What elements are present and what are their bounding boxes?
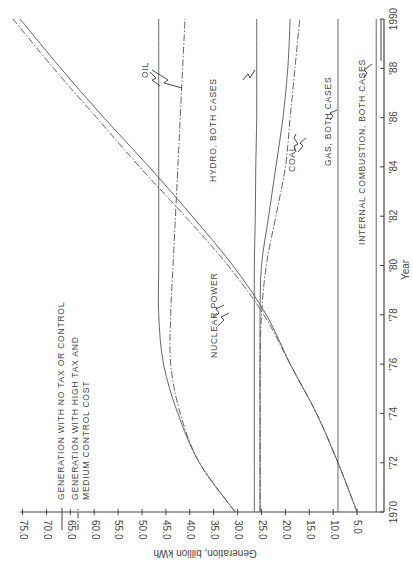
generation-chart: 5.010.015.020.025.030.035.040.045.050.05… xyxy=(0,0,413,572)
value-tick-label: 70.0 xyxy=(42,520,53,540)
value-tick-label: 5.0 xyxy=(352,520,363,534)
value-tick-label: 25.0 xyxy=(257,520,268,540)
label-coal: COAL xyxy=(287,146,297,172)
year-tick-label: '80 xyxy=(388,259,399,272)
legend-dashdot-label-2: MEDIUM CONTROL COST xyxy=(81,381,91,500)
leader-coal-2 xyxy=(298,138,306,152)
series-line-oil-high-tax xyxy=(170,19,235,512)
value-tick-label: 35.0 xyxy=(209,520,220,540)
year-tick-label: '72 xyxy=(388,456,399,469)
label-hydro: HYDRO, BOTH CASES xyxy=(208,78,218,182)
value-tick-label: 55.0 xyxy=(113,520,124,540)
legend-dashdot-label-1: GENERATION WITH HIGH TAX AND xyxy=(70,336,80,500)
series-line-coal-high-tax xyxy=(260,19,300,512)
year-tick-label: '88 xyxy=(388,61,399,74)
value-tick-label: 45.0 xyxy=(161,520,172,540)
value-tick-label: 30.0 xyxy=(233,520,244,540)
value-axis-title: Generation, billion kWh xyxy=(153,548,256,559)
value-tick-label: 20.0 xyxy=(281,520,292,540)
series-line-oil-no-tax xyxy=(158,19,235,512)
value-tick-label: 50.0 xyxy=(137,520,148,540)
year-tick-label: '78 xyxy=(388,308,399,321)
value-tick-label: 65.0 xyxy=(66,520,77,540)
value-tick-label: 40.0 xyxy=(185,520,196,540)
year-tick-label: '82 xyxy=(388,209,399,222)
year-tick-label: '86 xyxy=(388,111,399,124)
year-tick-label: '76 xyxy=(388,357,399,370)
chart-series xyxy=(13,19,376,512)
series-line-hydro-both-cases xyxy=(254,19,257,512)
value-tick-label: 60.0 xyxy=(90,520,101,540)
value-tick-label: 15.0 xyxy=(305,520,316,540)
label-gas: GAS, BOTH CASES xyxy=(323,77,333,166)
value-tick-label: 75.0 xyxy=(18,520,29,540)
leader-nuclear-2 xyxy=(218,313,229,326)
leader-oil-dashed xyxy=(152,70,182,88)
label-oil: OIL xyxy=(140,62,150,78)
year-axis-title: Year xyxy=(400,259,411,280)
year-tick-label: 1970 xyxy=(388,500,399,523)
legend-solid-label: GENERATION WITH NO TAX OR CONTROL xyxy=(56,302,66,500)
year-tick-label: '84 xyxy=(388,160,399,173)
label-nuclear-power: NUCLEAR POWER xyxy=(209,273,219,359)
year-tick-label: '74 xyxy=(388,406,399,419)
leader-hydro xyxy=(243,70,255,80)
chart-annotations: GENERATION WITH NO TAX OR CONTROLGENERAT… xyxy=(56,59,372,530)
label-internal-combustion: INTERNAL COMBUSTION, BOTH CASES xyxy=(357,59,367,245)
value-tick-label: 10.0 xyxy=(329,520,340,540)
year-tick-label: 1990 xyxy=(388,7,399,30)
series-line-coal-no-tax xyxy=(260,19,290,512)
